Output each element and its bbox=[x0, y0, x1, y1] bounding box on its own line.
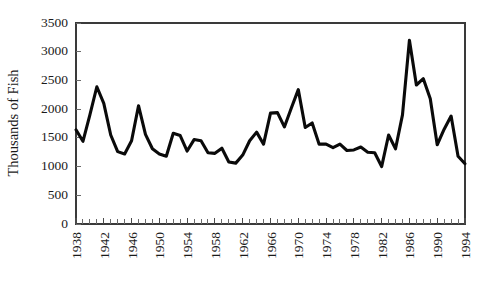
x-tick-label: 1982 bbox=[375, 232, 390, 259]
y-axis-title: Thousands of Fish bbox=[5, 69, 21, 177]
x-tick-label: 1958 bbox=[208, 232, 223, 259]
x-tick-label: 1970 bbox=[291, 232, 306, 259]
x-tick-label: 1942 bbox=[97, 232, 112, 259]
x-tick-label: 1966 bbox=[264, 232, 279, 259]
y-tick-label: 500 bbox=[48, 187, 69, 202]
y-tick-label: 3500 bbox=[41, 15, 68, 30]
x-tick-label: 1986 bbox=[402, 232, 417, 259]
chart-figure: 0500100015002000250030003500 19381942194… bbox=[0, 0, 490, 281]
x-tick-label: 1946 bbox=[125, 232, 140, 259]
y-tick-label: 2000 bbox=[41, 101, 68, 116]
x-tick-label: 1990 bbox=[430, 232, 445, 259]
y-tick-label: 2500 bbox=[41, 72, 68, 87]
x-tick-label: 1954 bbox=[180, 232, 195, 259]
x-tick-label: 1978 bbox=[347, 232, 362, 259]
y-axis-ticks: 0500100015002000250030003500 bbox=[41, 15, 81, 231]
x-tick-label: 1962 bbox=[236, 232, 251, 259]
y-tick-label: 3000 bbox=[41, 43, 68, 58]
x-tick-label: 1938 bbox=[69, 232, 84, 259]
x-tick-label: 1950 bbox=[152, 232, 167, 259]
x-tick-label: 1994 bbox=[458, 232, 473, 259]
x-tick-label: 1974 bbox=[319, 232, 334, 259]
fish-population-line-chart: 0500100015002000250030003500 19381942194… bbox=[0, 0, 490, 281]
y-tick-label: 0 bbox=[61, 216, 68, 231]
y-tick-label: 1000 bbox=[41, 158, 68, 173]
y-tick-label: 1500 bbox=[41, 129, 68, 144]
